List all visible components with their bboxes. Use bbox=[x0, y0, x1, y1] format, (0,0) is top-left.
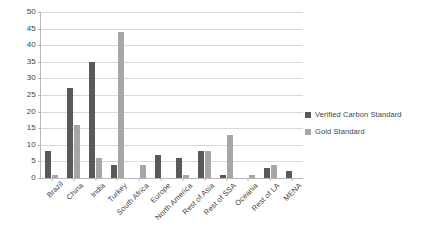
bar-chart: 50454035302520151050 BrazilChinaIndiaTur… bbox=[0, 0, 423, 245]
chart-legend: Verified Carbon StandardGold Standard bbox=[305, 110, 423, 144]
bar-verified-carbon-standard bbox=[45, 151, 51, 178]
bar-verified-carbon-standard bbox=[89, 62, 95, 178]
bar-group bbox=[106, 12, 128, 178]
bar-verified-carbon-standard bbox=[198, 151, 204, 178]
bar-gold-standard bbox=[183, 175, 189, 178]
bar-verified-carbon-standard bbox=[176, 158, 182, 178]
bar-gold-standard bbox=[249, 175, 255, 178]
legend-item: Verified Carbon Standard bbox=[305, 110, 423, 119]
bar-gold-standard bbox=[52, 175, 58, 178]
bar-gold-standard bbox=[118, 32, 124, 178]
bar-verified-carbon-standard bbox=[286, 171, 292, 178]
bar-group bbox=[172, 12, 194, 178]
bar-group bbox=[259, 12, 281, 178]
y-axis-tick-label: 25 bbox=[27, 91, 36, 99]
bar-group bbox=[237, 12, 259, 178]
y-axis-tick-label: 15 bbox=[27, 124, 36, 132]
y-axis-tick-label: 20 bbox=[27, 108, 36, 116]
y-axis: 50454035302520151050 bbox=[0, 12, 40, 178]
bar-group bbox=[85, 12, 107, 178]
bar-group bbox=[194, 12, 216, 178]
y-axis-tick-label: 5 bbox=[31, 157, 36, 165]
y-axis-tick-label: 0 bbox=[31, 174, 36, 182]
y-axis-tick-label: 40 bbox=[27, 41, 36, 49]
bar-verified-carbon-standard bbox=[111, 165, 117, 178]
legend-swatch-icon bbox=[305, 112, 311, 118]
bar-verified-carbon-standard bbox=[67, 88, 73, 178]
bar-gold-standard bbox=[96, 158, 102, 178]
bar-group bbox=[41, 12, 63, 178]
bar-verified-carbon-standard bbox=[155, 155, 161, 178]
x-axis-labels: BrazilChinaIndiaTurkeySouth AfricaEurope… bbox=[40, 179, 302, 245]
y-axis-tick-label: 30 bbox=[27, 74, 36, 82]
y-axis-tick-label: 35 bbox=[27, 58, 36, 66]
bar-group bbox=[281, 12, 303, 178]
bar-group bbox=[216, 12, 238, 178]
legend-item: Gold Standard bbox=[305, 127, 423, 136]
legend-label: Gold Standard bbox=[315, 127, 365, 136]
bar-group bbox=[128, 12, 150, 178]
bar-gold-standard bbox=[227, 135, 233, 178]
bar-gold-standard bbox=[271, 165, 277, 178]
bar-group bbox=[150, 12, 172, 178]
y-axis-tick-label: 45 bbox=[27, 25, 36, 33]
y-axis-tick-label: 10 bbox=[27, 141, 36, 149]
y-axis-tick-label: 50 bbox=[27, 8, 36, 16]
legend-label: Verified Carbon Standard bbox=[315, 110, 402, 119]
bar-groups bbox=[41, 12, 303, 178]
bar-verified-carbon-standard bbox=[264, 168, 270, 178]
x-axis-label: Brazil bbox=[45, 181, 63, 199]
legend-swatch-icon bbox=[305, 129, 311, 135]
bar-group bbox=[63, 12, 85, 178]
bar-gold-standard bbox=[205, 151, 211, 178]
bar-gold-standard bbox=[140, 165, 146, 178]
bar-gold-standard bbox=[74, 125, 80, 178]
plot-area bbox=[40, 12, 303, 179]
